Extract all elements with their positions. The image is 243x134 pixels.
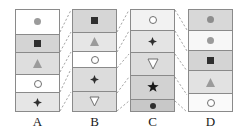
- connector-group-c-to-d: [175, 10, 187, 112]
- column-label-d: D: [188, 114, 233, 129]
- column-c: [130, 9, 175, 112]
- filled-triangle-up-icon: [205, 77, 216, 88]
- filled-triangle-up-icon: [89, 36, 100, 47]
- column-a: [15, 9, 60, 112]
- column-body-c: [130, 9, 175, 112]
- connector-line-bc-1: [117, 10, 129, 32]
- cell-b-2[interactable]: [73, 33, 116, 53]
- column-label-c: C: [130, 114, 175, 129]
- column-body-b: [72, 9, 117, 112]
- column-label-a: A: [15, 114, 60, 129]
- connector-line-ab-3: [60, 52, 71, 72]
- cell-a-3[interactable]: [16, 53, 59, 75]
- cell-a-2[interactable]: [16, 35, 59, 54]
- filled-star-icon: [146, 80, 160, 94]
- filled-circle-icon: [149, 102, 157, 110]
- cell-b-5[interactable]: [73, 92, 116, 111]
- filled-diamond-star-icon: [89, 74, 100, 85]
- open-circle-icon: [33, 79, 43, 89]
- column-b: [72, 9, 117, 112]
- connector-line-ab-5: [60, 92, 71, 111]
- cell-c-2[interactable]: [131, 31, 174, 54]
- open-circle-icon: [90, 55, 100, 65]
- cell-d-1[interactable]: [189, 10, 232, 31]
- connector-line-cd-3: [175, 54, 187, 71]
- open-circle-icon: [206, 98, 216, 108]
- open-triangle-down-icon: [89, 96, 100, 107]
- connector-line-cd-2: [175, 31, 187, 51]
- connector-line-bc-3: [117, 54, 129, 68]
- figure-canvas: ABCD: [0, 0, 243, 134]
- connector-group-b-to-c: [117, 10, 129, 111]
- filled-diamond-star-icon: [32, 97, 43, 108]
- cell-c-3[interactable]: [131, 53, 174, 76]
- filled-square-icon: [90, 16, 99, 25]
- connector-line-cd-4: [175, 77, 187, 95]
- cell-d-4[interactable]: [189, 71, 232, 95]
- cell-d-5[interactable]: [189, 94, 232, 111]
- cell-a-4[interactable]: [16, 75, 59, 94]
- filled-circle-icon: [206, 36, 215, 45]
- filled-square-icon: [206, 56, 215, 65]
- filled-circle-icon: [206, 15, 215, 24]
- column-body-a: [15, 9, 60, 112]
- connector-line-ab-1: [60, 10, 71, 32]
- connector-line-cd-1: [175, 10, 187, 30]
- cell-b-1[interactable]: [73, 10, 116, 33]
- connector-line-ab-4: [60, 69, 71, 92]
- connector-line-bc-4: [117, 77, 129, 93]
- connector-line-ab-2: [60, 32, 71, 52]
- cell-a-5[interactable]: [16, 93, 59, 111]
- connector-line-bc-5: [117, 101, 129, 111]
- cell-b-3[interactable]: [73, 52, 116, 68]
- filled-circle-icon: [33, 17, 42, 26]
- column-label-b: B: [72, 114, 117, 129]
- cell-b-4[interactable]: [73, 68, 116, 93]
- column-body-d: [188, 9, 233, 112]
- cell-d-2[interactable]: [189, 31, 232, 52]
- cell-a-1[interactable]: [16, 10, 59, 35]
- filled-diamond-star-icon: [147, 36, 158, 47]
- cell-c-5[interactable]: [131, 100, 174, 111]
- filled-square-icon: [33, 39, 42, 48]
- open-triangle-down-icon: [147, 58, 159, 70]
- cell-c-1[interactable]: [131, 10, 174, 31]
- cell-d-3[interactable]: [189, 51, 232, 71]
- open-circle-icon: [148, 15, 158, 25]
- connector-group-a-to-b: [60, 10, 71, 111]
- connector-line-bc-2: [117, 31, 129, 52]
- filled-triangle-up-icon: [32, 58, 43, 69]
- cell-c-4[interactable]: [131, 76, 174, 101]
- column-d: [188, 9, 233, 112]
- connector-line-cd-5: [175, 101, 187, 112]
